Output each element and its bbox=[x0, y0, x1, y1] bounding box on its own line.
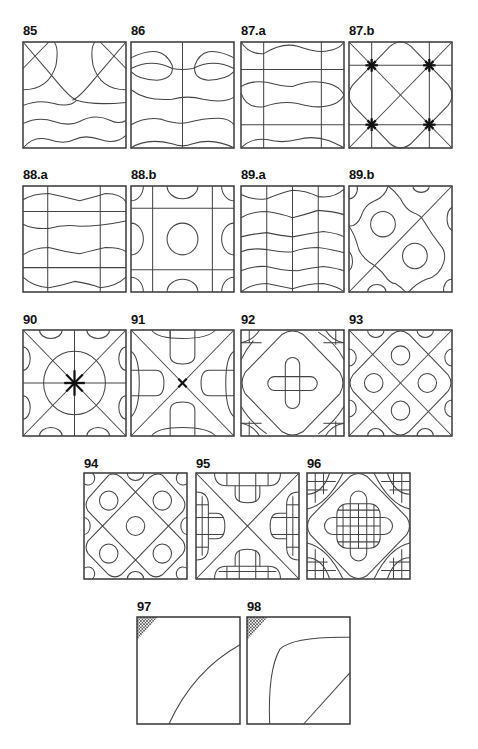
panel-label: 96 bbox=[307, 457, 321, 470]
panel-90: 90 bbox=[23, 313, 126, 437]
panel-label: 95 bbox=[196, 457, 210, 470]
panel-86: 86 bbox=[131, 24, 234, 148]
panel-92: 92 bbox=[241, 313, 344, 437]
nodal-pattern-89a bbox=[241, 186, 344, 292]
panel-label: 98 bbox=[247, 600, 261, 613]
nodal-pattern-97 bbox=[137, 617, 240, 724]
panel-97: 97 bbox=[137, 600, 240, 724]
panel-label: 88.b bbox=[131, 168, 156, 181]
panel-88a: 88.a bbox=[23, 168, 126, 292]
panel-label: 85 bbox=[23, 24, 37, 37]
panel-label: 97 bbox=[137, 600, 151, 613]
panel-label: 89.b bbox=[349, 168, 374, 181]
hatched-corner bbox=[137, 617, 158, 641]
panel-93: 93 bbox=[349, 313, 452, 437]
panel-label: 94 bbox=[84, 457, 98, 470]
panel-87a: 87.a bbox=[241, 24, 344, 148]
panel-87b: 87.b bbox=[349, 24, 452, 148]
nodal-pattern-96 bbox=[307, 473, 410, 579]
nodal-pattern-92 bbox=[241, 330, 344, 436]
panel-88b: 88.b bbox=[131, 168, 234, 292]
panel-label: 86 bbox=[131, 24, 145, 37]
panel-label: 87.b bbox=[349, 24, 374, 37]
nodal-pattern-85 bbox=[23, 42, 126, 148]
panel-91: 91 bbox=[131, 313, 234, 437]
nodal-pattern-89b bbox=[349, 186, 452, 292]
panel-98: 98 bbox=[247, 600, 350, 724]
panel-label: 87.a bbox=[241, 24, 266, 37]
nodal-pattern-90 bbox=[23, 330, 126, 436]
panel-label: 90 bbox=[23, 313, 37, 326]
hatched-corner bbox=[247, 617, 268, 641]
nodal-pattern-87a bbox=[241, 42, 344, 148]
panel-label: 89.a bbox=[241, 168, 266, 181]
nodal-pattern-86 bbox=[131, 42, 234, 148]
panel-94: 94 bbox=[84, 457, 187, 581]
nodal-pattern-91 bbox=[131, 330, 234, 436]
nodal-pattern-88b bbox=[131, 186, 234, 292]
panel-label: 91 bbox=[131, 313, 145, 326]
panel-85: 85 bbox=[23, 24, 126, 148]
panel-96: 96 bbox=[307, 457, 410, 581]
nodal-pattern-95 bbox=[196, 473, 299, 579]
nodal-pattern-94 bbox=[84, 473, 187, 579]
nodal-pattern-93 bbox=[349, 330, 452, 436]
panel-89a: 89.a bbox=[241, 168, 344, 292]
panel-95: 95 bbox=[196, 457, 299, 581]
panel-label: 93 bbox=[349, 313, 363, 326]
nodal-pattern-88a bbox=[23, 186, 126, 292]
nodal-pattern-98 bbox=[247, 617, 350, 724]
panel-label: 92 bbox=[241, 313, 255, 326]
panel-label: 88.a bbox=[23, 168, 48, 181]
nodal-pattern-87b bbox=[349, 42, 452, 148]
panel-89b: 89.b bbox=[349, 168, 452, 292]
